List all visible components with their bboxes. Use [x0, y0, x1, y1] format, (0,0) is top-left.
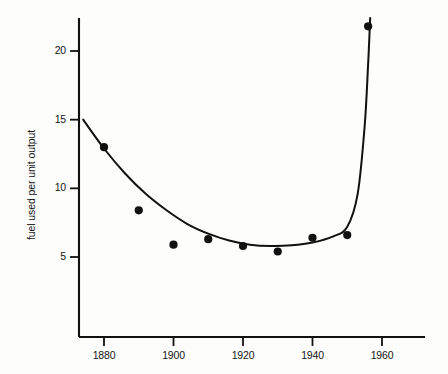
data-point-group — [100, 22, 372, 255]
axis-lines — [79, 18, 425, 337]
y-axis-ticks — [70, 51, 79, 257]
data-point — [135, 206, 143, 214]
x-tick-label: 1900 — [144, 349, 204, 361]
y-tick-label: 5 — [0, 250, 66, 262]
data-point — [100, 143, 108, 151]
fitted-curve — [83, 18, 370, 246]
data-point — [204, 235, 212, 243]
y-tick-label: 20 — [0, 44, 66, 56]
x-tick-label: 1880 — [74, 349, 134, 361]
x-tick-label: 1920 — [213, 349, 273, 361]
chart-figure: fuel used per unit output 18801900192019… — [0, 0, 448, 374]
data-point — [169, 241, 177, 249]
data-point — [274, 247, 282, 255]
x-tick-label: 1960 — [352, 349, 412, 361]
y-tick-label: 10 — [0, 181, 66, 193]
data-point — [308, 234, 316, 242]
data-point — [343, 231, 351, 239]
x-tick-label: 1940 — [283, 349, 343, 361]
y-tick-label: 15 — [0, 113, 66, 125]
data-point — [239, 242, 247, 250]
scatter-plot-canvas — [0, 0, 448, 374]
data-point — [364, 22, 372, 30]
x-axis-ticks — [104, 337, 382, 346]
